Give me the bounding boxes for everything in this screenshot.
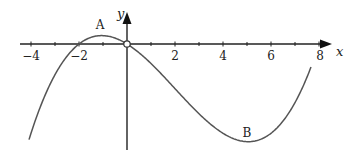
origin-point [124, 41, 130, 47]
x-axis-arrow-icon [320, 40, 332, 49]
cubic-graph: −4 −2 2 4 6 8 x y A B [0, 0, 355, 161]
tick-label-4: 4 [219, 49, 227, 63]
tick-label-2: 2 [171, 49, 179, 63]
x-axis-label: x [336, 44, 344, 59]
tick-label-neg4: −4 [22, 49, 40, 63]
y-axis-label: y [116, 6, 125, 21]
point-label-b: B [243, 126, 252, 140]
point-label-a: A [95, 18, 105, 32]
tick-label-neg2: −2 [70, 49, 88, 63]
tick-label-8: 8 [316, 49, 324, 63]
tick-label-6: 6 [267, 49, 275, 63]
